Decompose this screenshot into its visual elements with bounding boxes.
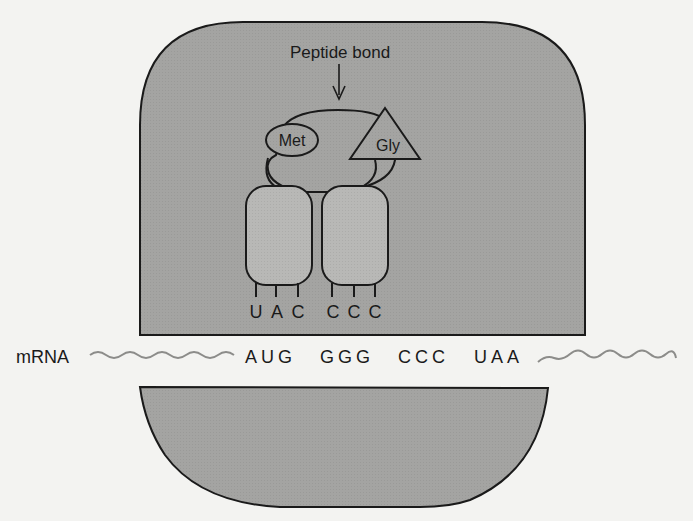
mrna-wave-right <box>538 351 676 363</box>
anticodon-base: C <box>369 302 382 322</box>
anticodon-base: U <box>250 302 263 322</box>
anticodon-base: C <box>292 302 305 322</box>
codon: AUG <box>245 347 296 367</box>
small-ribosomal-subunit <box>140 387 548 507</box>
anticodon-base: C <box>327 302 340 322</box>
met-label: Met <box>279 132 306 149</box>
mrna-label: mRNA <box>16 347 69 367</box>
gly-label: Gly <box>376 137 400 154</box>
anticodon-base: C <box>348 302 361 322</box>
ribosome-diagram: Peptide bond U A C C C C Met <box>0 0 693 521</box>
mrna-strand: mRNA AUG GGG CCC UAA <box>16 347 676 367</box>
amino-acid-met: Met <box>266 124 318 156</box>
codon: UAA <box>474 347 523 367</box>
codon: GGG <box>320 347 374 367</box>
mrna-wave-left <box>90 352 234 358</box>
codon: CCC <box>398 347 449 367</box>
anticodon-base: A <box>271 302 283 322</box>
peptide-bond-label: Peptide bond <box>290 43 390 62</box>
